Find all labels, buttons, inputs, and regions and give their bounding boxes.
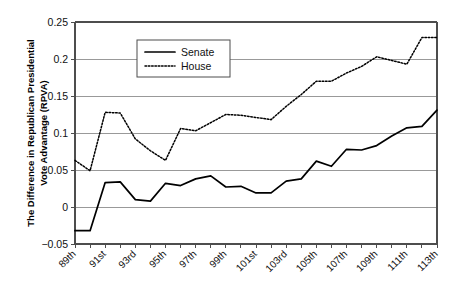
legend-label-house: House — [181, 60, 212, 72]
x-tick-label: 107th — [324, 248, 349, 273]
x-tick-label: 109th — [354, 248, 379, 273]
y-tick-label: −0.05 — [41, 238, 68, 250]
x-tick-label: 105th — [294, 248, 319, 273]
y-tick-label: 0.25 — [48, 16, 69, 28]
y-axis-title-line2: Vote Advantage (RPVA) — [38, 80, 49, 185]
x-tick-label: 101st — [234, 248, 259, 273]
x-tick-label: 93rd — [116, 248, 138, 270]
y-tick-label: 0.05 — [48, 164, 69, 176]
x-tick-label: 113th — [415, 248, 440, 273]
chart-container: 0.250.20.150.10.050−0.0589th91st93rd95th… — [0, 0, 455, 293]
x-tick-label: 111th — [385, 248, 409, 272]
y-tick-label: 0.1 — [53, 127, 68, 139]
series-line-house — [75, 38, 437, 171]
x-tick-label: 97th — [177, 248, 199, 270]
x-tick-label: 103rd — [263, 248, 289, 274]
y-tick-label: 0.15 — [48, 90, 69, 102]
y-tick-label: 0.2 — [53, 53, 68, 65]
y-axis-title-line1: The Difference in Republican Presidentia… — [25, 39, 36, 226]
x-tick-label: 99th — [207, 248, 229, 270]
rpva-line-chart: 0.250.20.150.10.050−0.0589th91st93rd95th… — [0, 0, 455, 293]
x-tick-label: 91st — [87, 248, 108, 269]
y-tick-label: 0 — [62, 201, 68, 213]
legend-label-senate: Senate — [181, 46, 214, 58]
x-tick-label: 89th — [56, 248, 78, 270]
x-tick-label: 95th — [147, 248, 169, 270]
